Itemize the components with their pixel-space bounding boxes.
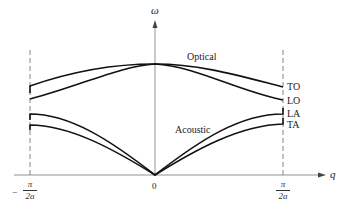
TO-label: TO (287, 82, 300, 92)
x-tick-right-num: π (276, 180, 290, 189)
x-tick-left-minus: − (12, 188, 17, 197)
curve-LO (30, 64, 283, 100)
LA-label: LA (287, 109, 300, 119)
omega-axis-label: ω (151, 5, 159, 16)
TA-label: TA (287, 120, 300, 130)
x-tick-left: π 2a (23, 180, 37, 201)
x-tick-right: π 2a (276, 180, 290, 201)
q-axis-arrow-icon (318, 173, 326, 178)
x-tick-right-den: 2a (276, 192, 290, 201)
x-tick-zero: 0 (152, 182, 157, 191)
x-tick-left-den: 2a (23, 192, 37, 201)
LO-label: LO (287, 96, 300, 106)
x-tick-left-num: π (23, 180, 37, 189)
curve-LA (30, 108, 283, 175)
acoustic-label: Acoustic (175, 125, 211, 135)
omega-axis-arrow-icon (153, 20, 158, 28)
q-axis-label: q (330, 169, 336, 180)
optical-label: Optical (187, 52, 216, 62)
curve-TA (30, 118, 283, 175)
